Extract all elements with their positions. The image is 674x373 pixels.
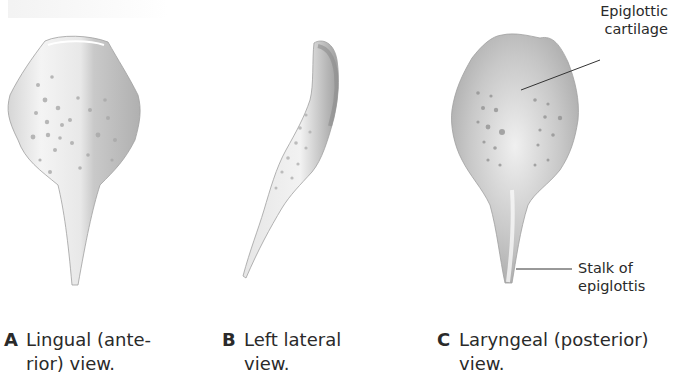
- label-line: Stalk of: [578, 259, 668, 277]
- caption-text: Left lateral view.: [244, 328, 341, 373]
- panel-a-epiglottis: [8, 36, 140, 285]
- caption-line: view.: [459, 352, 649, 373]
- epiglottis-illustrations: [0, 0, 674, 373]
- caption-letter: B: [222, 328, 236, 352]
- label-line: epiglottis: [578, 277, 668, 295]
- caption-line: Laryngeal (posterior): [459, 328, 649, 352]
- caption-letter: C: [437, 328, 450, 352]
- label-line: Epiglottic: [580, 2, 668, 20]
- caption-line: Left lateral: [244, 328, 341, 352]
- caption-text: Lingual (ante- rior) view.: [26, 328, 151, 373]
- epiglottis-figure: Epiglottic cartilage Stalk of epiglottis…: [0, 0, 674, 373]
- stalk-of-epiglottis-label: Stalk of epiglottis: [578, 259, 668, 295]
- caption-letter: A: [4, 328, 18, 352]
- caption-text: Laryngeal (posterior) view.: [459, 328, 649, 373]
- panel-c-epiglottis: [451, 34, 578, 283]
- caption-line: Lingual (ante-: [26, 328, 151, 352]
- epiglottic-cartilage-label: Epiglottic cartilage: [580, 2, 668, 38]
- caption-line: view.: [244, 352, 341, 373]
- label-line: cartilage: [580, 20, 668, 38]
- caption-line: rior) view.: [26, 352, 151, 373]
- panel-b-epiglottis: [243, 41, 338, 278]
